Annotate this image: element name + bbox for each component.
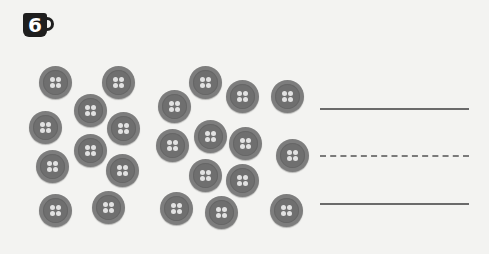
button-hole — [167, 146, 172, 151]
sewing-button-icon — [39, 194, 72, 227]
button-hole — [281, 205, 286, 210]
button-hole — [206, 83, 211, 88]
button-hole — [103, 208, 108, 213]
button-hole — [85, 105, 90, 110]
button-hole — [175, 107, 180, 112]
sewing-button-icon — [160, 192, 193, 225]
answer-line-3[interactable] — [320, 203, 469, 205]
button-hole — [47, 161, 52, 166]
button-hole — [200, 170, 205, 175]
button-hole — [205, 137, 210, 142]
button-hole — [124, 123, 129, 128]
sewing-button-icon — [189, 66, 222, 99]
sewing-button-icon — [74, 94, 107, 127]
button-hole — [211, 137, 216, 142]
button-hole — [287, 211, 292, 216]
button-hole — [287, 156, 292, 161]
button-hole — [119, 83, 124, 88]
answer-line-2[interactable] — [320, 155, 469, 157]
answer-line-1[interactable] — [320, 108, 469, 110]
button-hole — [103, 202, 108, 207]
button-hole — [237, 181, 242, 186]
button-hole — [169, 107, 174, 112]
button-hole — [85, 151, 90, 156]
sewing-button-icon — [92, 191, 125, 224]
button-hole — [200, 77, 205, 82]
button-hole — [293, 150, 298, 155]
button-hole — [91, 145, 96, 150]
button-hole — [123, 165, 128, 170]
button-hole — [47, 167, 52, 172]
sewing-button-icon — [270, 194, 303, 227]
button-hole — [288, 97, 293, 102]
button-hole — [171, 203, 176, 208]
button-hole — [200, 83, 205, 88]
sewing-button-icon — [29, 111, 62, 144]
button-hole — [243, 181, 248, 186]
button-hole — [237, 91, 242, 96]
sewing-button-icon — [226, 164, 259, 197]
button-hole — [53, 167, 58, 172]
button-hole — [246, 144, 251, 149]
sewing-button-icon — [36, 150, 69, 183]
button-hole — [240, 138, 245, 143]
button-hole — [91, 105, 96, 110]
sewing-button-icon — [107, 112, 140, 145]
button-hole — [281, 211, 286, 216]
button-hole — [222, 207, 227, 212]
sewing-button-icon — [226, 80, 259, 113]
button-hole — [173, 140, 178, 145]
button-hole — [173, 146, 178, 151]
button-hole — [56, 211, 61, 216]
button-hole — [56, 83, 61, 88]
button-hole — [56, 77, 61, 82]
button-hole — [237, 97, 242, 102]
button-hole — [206, 170, 211, 175]
button-hole — [123, 171, 128, 176]
button-hole — [287, 205, 292, 210]
button-hole — [91, 151, 96, 156]
sewing-button-icon — [39, 66, 72, 99]
button-hole — [205, 131, 210, 136]
sewing-button-icon — [271, 80, 304, 113]
exercise-number: 6 — [28, 13, 42, 37]
button-hole — [246, 138, 251, 143]
button-hole — [40, 122, 45, 127]
button-hole — [50, 205, 55, 210]
button-hole — [117, 171, 122, 176]
button-hole — [85, 111, 90, 116]
button-hole — [119, 77, 124, 82]
sewing-button-icon — [194, 120, 227, 153]
button-hole — [56, 205, 61, 210]
button-hole — [222, 213, 227, 218]
button-hole — [282, 97, 287, 102]
button-hole — [109, 202, 114, 207]
button-hole — [85, 145, 90, 150]
button-hole — [206, 176, 211, 181]
button-hole — [91, 111, 96, 116]
button-hole — [40, 128, 45, 133]
button-hole — [177, 203, 182, 208]
button-hole — [177, 209, 182, 214]
button-hole — [282, 91, 287, 96]
sewing-button-icon — [229, 127, 262, 160]
button-hole — [293, 156, 298, 161]
button-hole — [171, 209, 176, 214]
button-hole — [240, 144, 245, 149]
button-hole — [237, 175, 242, 180]
button-hole — [46, 128, 51, 133]
button-hole — [243, 175, 248, 180]
button-hole — [288, 91, 293, 96]
sewing-button-icon — [205, 196, 238, 229]
button-hole — [211, 131, 216, 136]
button-hole — [118, 123, 123, 128]
sewing-button-icon — [189, 159, 222, 192]
button-hole — [206, 77, 211, 82]
button-hole — [216, 213, 221, 218]
sewing-button-icon — [276, 139, 309, 172]
button-hole — [117, 165, 122, 170]
button-hole — [50, 83, 55, 88]
button-hole — [216, 207, 221, 212]
sewing-button-icon — [156, 129, 189, 162]
button-hole — [50, 211, 55, 216]
